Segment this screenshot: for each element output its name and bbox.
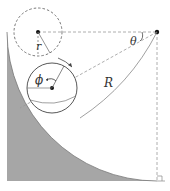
label-phi: ϕ [35, 73, 43, 87]
label-R: R [103, 76, 113, 90]
label-r: r [36, 40, 42, 53]
right-angle-marker [157, 176, 162, 181]
label-theta: θ [130, 35, 137, 48]
theta-arc [140, 32, 143, 41]
rolling-disk-diagram: r R θ ϕ [0, 0, 170, 191]
large-radius-arc [80, 32, 157, 118]
